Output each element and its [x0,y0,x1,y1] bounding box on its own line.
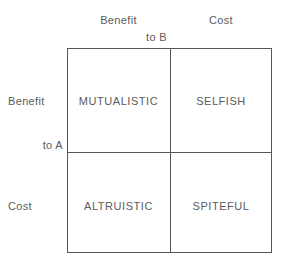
matrix-vertical-divider [170,48,171,253]
row-header-benefit: Benefit [8,95,60,108]
matrix-cell-top-left: MUTUALISTIC [67,95,170,108]
matrix-cell-bottom-left: ALTRUISTIC [67,200,170,213]
matrix-cell-bottom-right: SPITEFUL [170,200,272,213]
axis-label-to-a: to A [8,139,63,152]
matrix-cell-top-right: SELFISH [170,95,272,108]
axis-label-to-b: to B [110,31,167,44]
matrix-horizontal-divider [67,152,272,153]
column-header-cost: Cost [170,14,272,27]
row-header-cost: Cost [8,200,60,213]
behaviour-matrix-figure: Benefit Cost to B Benefit Cost to A MUTU… [0,0,288,268]
column-header-benefit: Benefit [67,14,170,27]
